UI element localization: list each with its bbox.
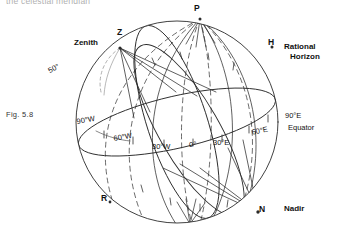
label-zenith-Z: Z (117, 28, 122, 38)
htick-6 (170, 198, 171, 205)
label-longitude-30W: 30°W (152, 143, 170, 152)
label-longitude-0: 0° (189, 141, 196, 150)
htick-4 (233, 63, 234, 70)
label-rational-horizon-line2: Horizon (290, 52, 320, 62)
ray-p-3 (200, 19, 206, 47)
zenith-arc-left (104, 48, 120, 95)
label-nadir-N: N (259, 205, 265, 215)
nadir-ray-group (163, 140, 258, 212)
meridian-15E-dashed (200, 19, 211, 224)
dot-R (109, 201, 112, 204)
label-zenith-name: Zenith (74, 38, 98, 47)
dot-Z (118, 46, 121, 49)
htick-8 (227, 200, 228, 207)
label-R: R (101, 194, 107, 204)
htick-3 (208, 53, 209, 60)
ray-n-1 (200, 168, 258, 212)
pole-ray-group (186, 19, 215, 47)
label-longitude-90E: 90°E (285, 112, 301, 121)
label-horizon-H: H (268, 38, 274, 48)
figure-page: the celestial meridian Fig. 5.8 (0, 0, 340, 241)
label-rational-horizon-line1: Rational (284, 42, 316, 52)
colatitude-arc-50 (100, 48, 120, 92)
meridian-dashed-group (105, 19, 252, 224)
label-pole-P: P (194, 4, 200, 14)
meridian-front-group (152, 19, 256, 224)
dot-P (199, 18, 202, 21)
meridian-60W-dashed (129, 19, 200, 223)
meridian-0-dashed (182, 19, 200, 224)
label-nadir-name: Nadir (284, 204, 304, 213)
label-equator: Equator (288, 124, 314, 133)
ray-z-5 (120, 48, 134, 118)
ray-n-4 (228, 148, 258, 212)
label-longitude-30E: 30°E (213, 139, 229, 148)
equator-circle (73, 74, 282, 170)
htick-5 (141, 185, 143, 192)
